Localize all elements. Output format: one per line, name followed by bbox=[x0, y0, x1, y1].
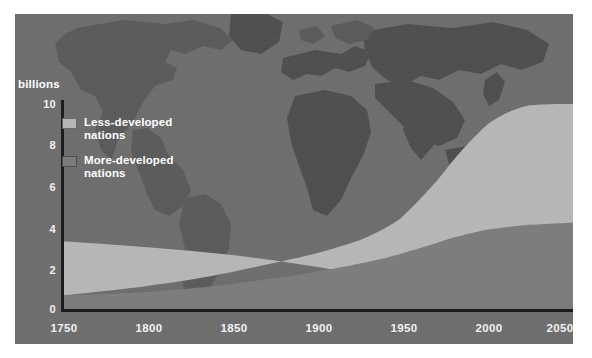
legend-label-more-developed: More-developed nations bbox=[84, 154, 174, 180]
legend-label-less-developed: Less-developed nations bbox=[84, 116, 172, 142]
y-axis-tick-labels: 10 8 6 4 2 0 bbox=[0, 0, 56, 358]
x-axis-line bbox=[61, 309, 573, 312]
x-tick-1900: 1900 bbox=[306, 322, 333, 334]
legend-item-more-developed: More-developed nations bbox=[62, 154, 212, 180]
x-tick-1750: 1750 bbox=[51, 322, 78, 334]
x-tick-1950: 1950 bbox=[391, 322, 418, 334]
y-tick-6: 6 bbox=[12, 182, 56, 193]
less-developed-swatch bbox=[62, 118, 77, 129]
legend-item-less-developed: Less-developed nations bbox=[62, 116, 212, 142]
more-developed-swatch bbox=[62, 156, 77, 167]
chart-legend: Less-developed nations More-developed na… bbox=[62, 116, 212, 192]
x-tick-2000: 2000 bbox=[476, 322, 503, 334]
y-tick-8: 8 bbox=[12, 140, 56, 151]
y-tick-2: 2 bbox=[12, 265, 56, 276]
y-tick-10: 10 bbox=[12, 99, 56, 110]
x-tick-1800: 1800 bbox=[136, 322, 163, 334]
chart-screenshot: billions 10 8 6 4 2 0 1750 1800 1850 190… bbox=[0, 0, 592, 358]
x-tick-2050: 2050 bbox=[547, 322, 574, 334]
y-tick-4: 4 bbox=[12, 224, 56, 235]
x-tick-1850: 1850 bbox=[221, 322, 248, 334]
y-tick-0: 0 bbox=[12, 304, 56, 315]
